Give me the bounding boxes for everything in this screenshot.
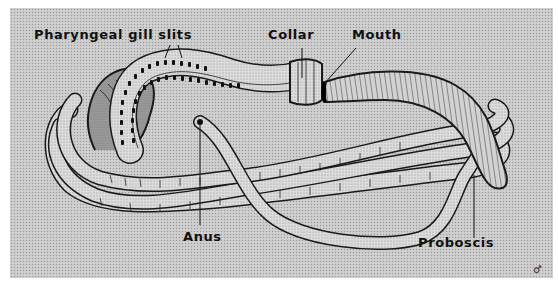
label-proboscis: Proboscis: [418, 235, 494, 250]
label-anus: Anus: [183, 229, 222, 244]
label-gill-slits: Pharyngeal gill slits: [34, 27, 192, 42]
label-collar: Collar: [268, 27, 314, 42]
pharynx-region: [88, 60, 300, 150]
collar: [290, 59, 322, 105]
artist-signature-mark: ♂: [533, 264, 542, 275]
label-mouth: Mouth: [352, 27, 402, 42]
